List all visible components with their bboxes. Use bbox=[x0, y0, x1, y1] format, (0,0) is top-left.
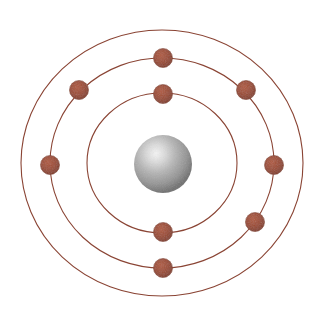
electron-shell1-top bbox=[154, 85, 173, 104]
electron-shell3-right bbox=[265, 156, 284, 175]
electron-shell2-upper-left bbox=[70, 81, 89, 100]
electron-shell2-lower-right bbox=[246, 213, 265, 232]
nucleus bbox=[134, 135, 192, 193]
nucleus-group bbox=[134, 135, 192, 193]
electron-shell3-bottom bbox=[154, 259, 173, 278]
atom-diagram-canvas bbox=[0, 0, 326, 315]
atom-diagram bbox=[0, 0, 326, 315]
electron-shell1-bottom bbox=[154, 223, 173, 242]
electron-shell2-top bbox=[154, 49, 173, 68]
electron-shell3-left bbox=[41, 156, 60, 175]
electron-shell2-upper-right bbox=[237, 81, 256, 100]
